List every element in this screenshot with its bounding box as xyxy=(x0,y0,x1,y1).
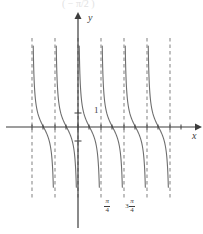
tick-numerator: π xyxy=(129,198,135,205)
x-tick-label-3pi-over-4: 3 π 4 xyxy=(120,198,140,215)
tick-denominator: 4 xyxy=(129,207,135,214)
y-unit-tick-label: 1 xyxy=(94,106,99,115)
function-branch xyxy=(125,46,145,187)
function-branch xyxy=(33,46,53,187)
graph-figure: ( − π/2 ) y x 1 π 4 3 xyxy=(0,0,203,234)
y-axis-label: y xyxy=(88,13,92,23)
x-axis-label: x xyxy=(192,131,196,141)
function-branch xyxy=(79,46,99,187)
function-branch xyxy=(102,46,122,187)
tick-numerator: π xyxy=(104,198,110,205)
x-tick-label-pi-over-4: π 4 xyxy=(99,198,115,215)
tick-denominator: 4 xyxy=(104,207,110,214)
function-branch xyxy=(148,46,168,187)
function-branch xyxy=(56,46,76,187)
